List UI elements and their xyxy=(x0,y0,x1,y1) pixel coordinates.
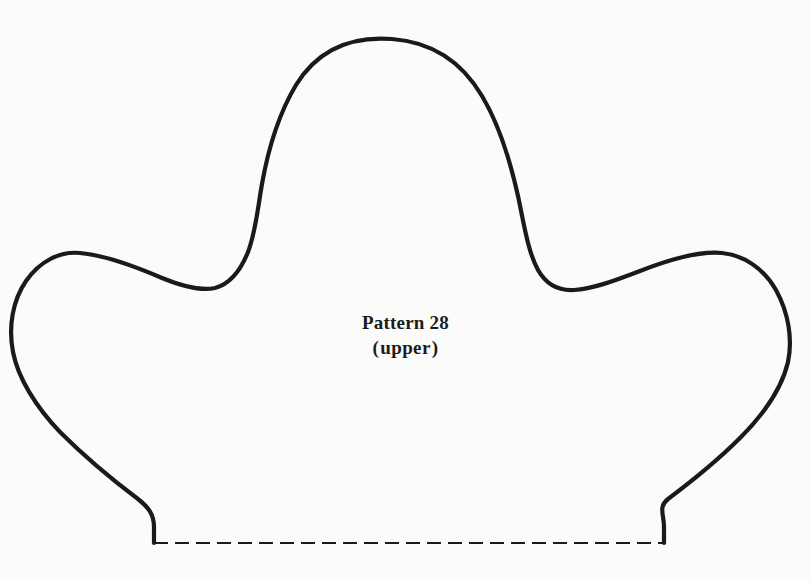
pattern-page: Pattern 28 (upper) xyxy=(0,0,811,581)
pattern-outline-path xyxy=(11,39,790,543)
pattern-drawing xyxy=(0,0,811,581)
